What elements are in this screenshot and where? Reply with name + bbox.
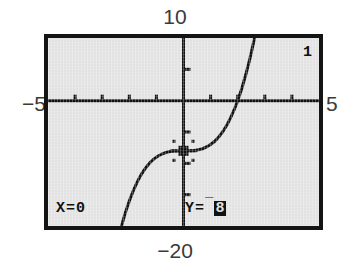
equation-index-indicator: 1: [303, 45, 312, 60]
cursor-pixel: [171, 149, 178, 152]
negative-sign-icon: ¯: [205, 197, 214, 211]
cursor-pixel: [182, 138, 185, 145]
cursor-pixel: [190, 149, 197, 152]
window-ymin-label: −20: [0, 240, 350, 261]
cursor-pixel: [173, 159, 176, 162]
window-ymax-label: 10: [0, 6, 350, 27]
cursor-pixel: [192, 159, 195, 162]
window-xmin-label: −5: [6, 93, 46, 114]
trace-y-prefix: Y=: [185, 200, 205, 217]
cursor-pixel: [173, 140, 176, 143]
trace-y-value: 8: [214, 201, 226, 216]
trace-y-readout: Y=¯8: [185, 201, 226, 216]
cursor-pixel: [192, 140, 195, 143]
y-axis-ticks: [185, 69, 191, 194]
calculator-screenshot: 10 −5 5 −20 1 X=0 Y=¯8: [0, 0, 350, 271]
trace-cursor-icon: [171, 138, 197, 164]
cursor-pixel: [179, 146, 189, 156]
cursor-pixel: [182, 157, 185, 164]
graph-plot-area: [48, 38, 319, 226]
trace-x-readout: X=0: [56, 201, 86, 216]
calculator-display[interactable]: 1 X=0 Y=¯8: [44, 34, 323, 230]
axes-group: [48, 38, 319, 226]
window-xmax-label: 5: [326, 93, 350, 114]
